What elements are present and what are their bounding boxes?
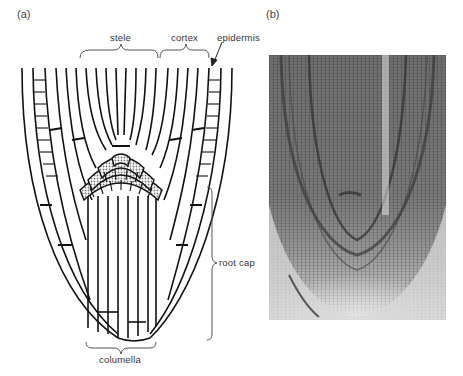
columella-brace bbox=[86, 342, 156, 354]
label-cortex: cortex bbox=[171, 32, 198, 43]
label-epidermis: epidermis bbox=[217, 32, 260, 43]
root-tip-micrograph bbox=[269, 55, 446, 320]
label-stele: stele bbox=[110, 32, 131, 43]
stele-brace bbox=[80, 44, 158, 58]
epidermis-arrow bbox=[211, 42, 222, 66]
root-cap-brace bbox=[207, 187, 217, 340]
label-root-cap: root cap bbox=[219, 257, 255, 268]
root-tip-diagram bbox=[0, 0, 270, 376]
cortex-brace bbox=[160, 44, 209, 58]
label-columella: columella bbox=[99, 354, 141, 365]
